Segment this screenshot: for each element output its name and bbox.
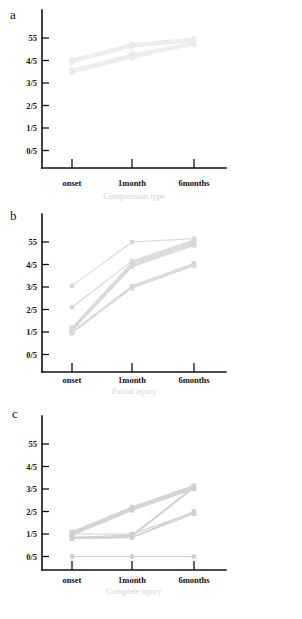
series-marker-10-0	[70, 554, 74, 558]
y-axis-tick-label-2: 3/5	[26, 282, 37, 292]
panel-caption: Partial injury	[112, 386, 157, 396]
y-axis-tick-label-2: 3/5	[26, 78, 37, 88]
y-axis-tick-label-1: 4/5	[26, 260, 37, 270]
x-axis-tick-label-0: onset	[63, 178, 82, 188]
x-axis-tick-label-0: onset	[63, 575, 82, 585]
x-axis-tick-label-1: 1month	[118, 375, 146, 385]
series-line-8	[72, 263, 194, 332]
y-axis-tick-label-4: 1/5	[26, 123, 37, 133]
series-marker-10-0	[70, 331, 74, 335]
y-axis-tick-label-3: 2/5	[26, 507, 37, 517]
panel-b-plot: 554/53/52/51/50/5onset1month6monthsParti…	[0, 200, 302, 405]
y-axis-tick-label-4: 1/5	[26, 529, 37, 539]
series-marker-5-0	[70, 61, 74, 65]
y-axis-tick-label-4: 1/5	[26, 327, 37, 337]
y-axis-tick-label-1: 4/5	[26, 462, 37, 472]
series-marker-9-0	[70, 536, 74, 540]
multi-panel-line-chart-figure: a 554/53/52/51/50/5onset1month6monthsCom…	[0, 0, 302, 619]
series-line-9	[72, 265, 194, 333]
panel-caption: Complete injury	[106, 586, 162, 596]
series-marker-9-2	[192, 512, 196, 516]
series-marker-8-0	[70, 532, 74, 536]
y-axis-tick-label-1: 4/5	[26, 56, 37, 66]
x-axis-tick-label-2: 6months	[178, 575, 210, 585]
panel-b-partial-injury: b 554/53/52/51/50/5onset1month6monthsPar…	[0, 200, 302, 405]
series-marker-6-2	[192, 486, 196, 490]
x-axis-tick-label-2: 6months	[178, 375, 210, 385]
series-marker-10-1	[130, 286, 134, 290]
y-axis-tick-label-0: 55	[29, 439, 38, 449]
y-axis-tick-label-5: 0/5	[26, 552, 37, 562]
series-marker-5-1	[130, 45, 134, 49]
series-marker-7-1	[130, 265, 134, 269]
series-marker-4-1	[130, 508, 134, 512]
series-marker-10-2	[192, 43, 196, 47]
y-axis-tick-label-3: 2/5	[26, 305, 37, 315]
series-line-10	[72, 266, 194, 334]
y-axis-tick-label-0: 55	[29, 237, 38, 247]
series-marker-10-2	[192, 263, 196, 267]
series-marker-9-1	[130, 535, 134, 539]
x-axis-tick-label-1: 1month	[118, 575, 146, 585]
series-marker-2-0	[70, 305, 74, 309]
series-marker-10-0	[70, 71, 74, 75]
panel-a-plot: 554/53/52/51/50/5onset1month6monthsCompr…	[0, 0, 302, 207]
panel-c-complete-injury: c 554/53/52/51/50/5onset1month6monthsCom…	[0, 398, 302, 619]
series-marker-7-2	[192, 243, 196, 247]
series-marker-1-0	[70, 284, 74, 288]
series-marker-1-1	[130, 240, 134, 244]
y-axis-tick-label-0: 55	[29, 33, 38, 43]
x-axis-tick-label-1: 1month	[118, 178, 146, 188]
x-axis-tick-label-2: 6months	[178, 178, 210, 188]
y-axis-tick-label-5: 0/5	[26, 350, 37, 360]
series-marker-10-1	[130, 56, 134, 60]
y-axis-tick-label-5: 0/5	[26, 146, 37, 156]
y-axis-tick-label-3: 2/5	[26, 101, 37, 111]
panel-c-plot: 554/53/52/51/50/5onset1month6monthsCompl…	[0, 398, 302, 619]
series-line-8	[72, 513, 194, 534]
series-marker-10-2	[192, 554, 196, 558]
panel-a-compression-type: a 554/53/52/51/50/5onset1month6monthsCom…	[0, 0, 302, 207]
series-marker-10-1	[130, 554, 134, 558]
y-axis-tick-label-2: 3/5	[26, 484, 37, 494]
x-axis-tick-label-0: onset	[63, 375, 82, 385]
